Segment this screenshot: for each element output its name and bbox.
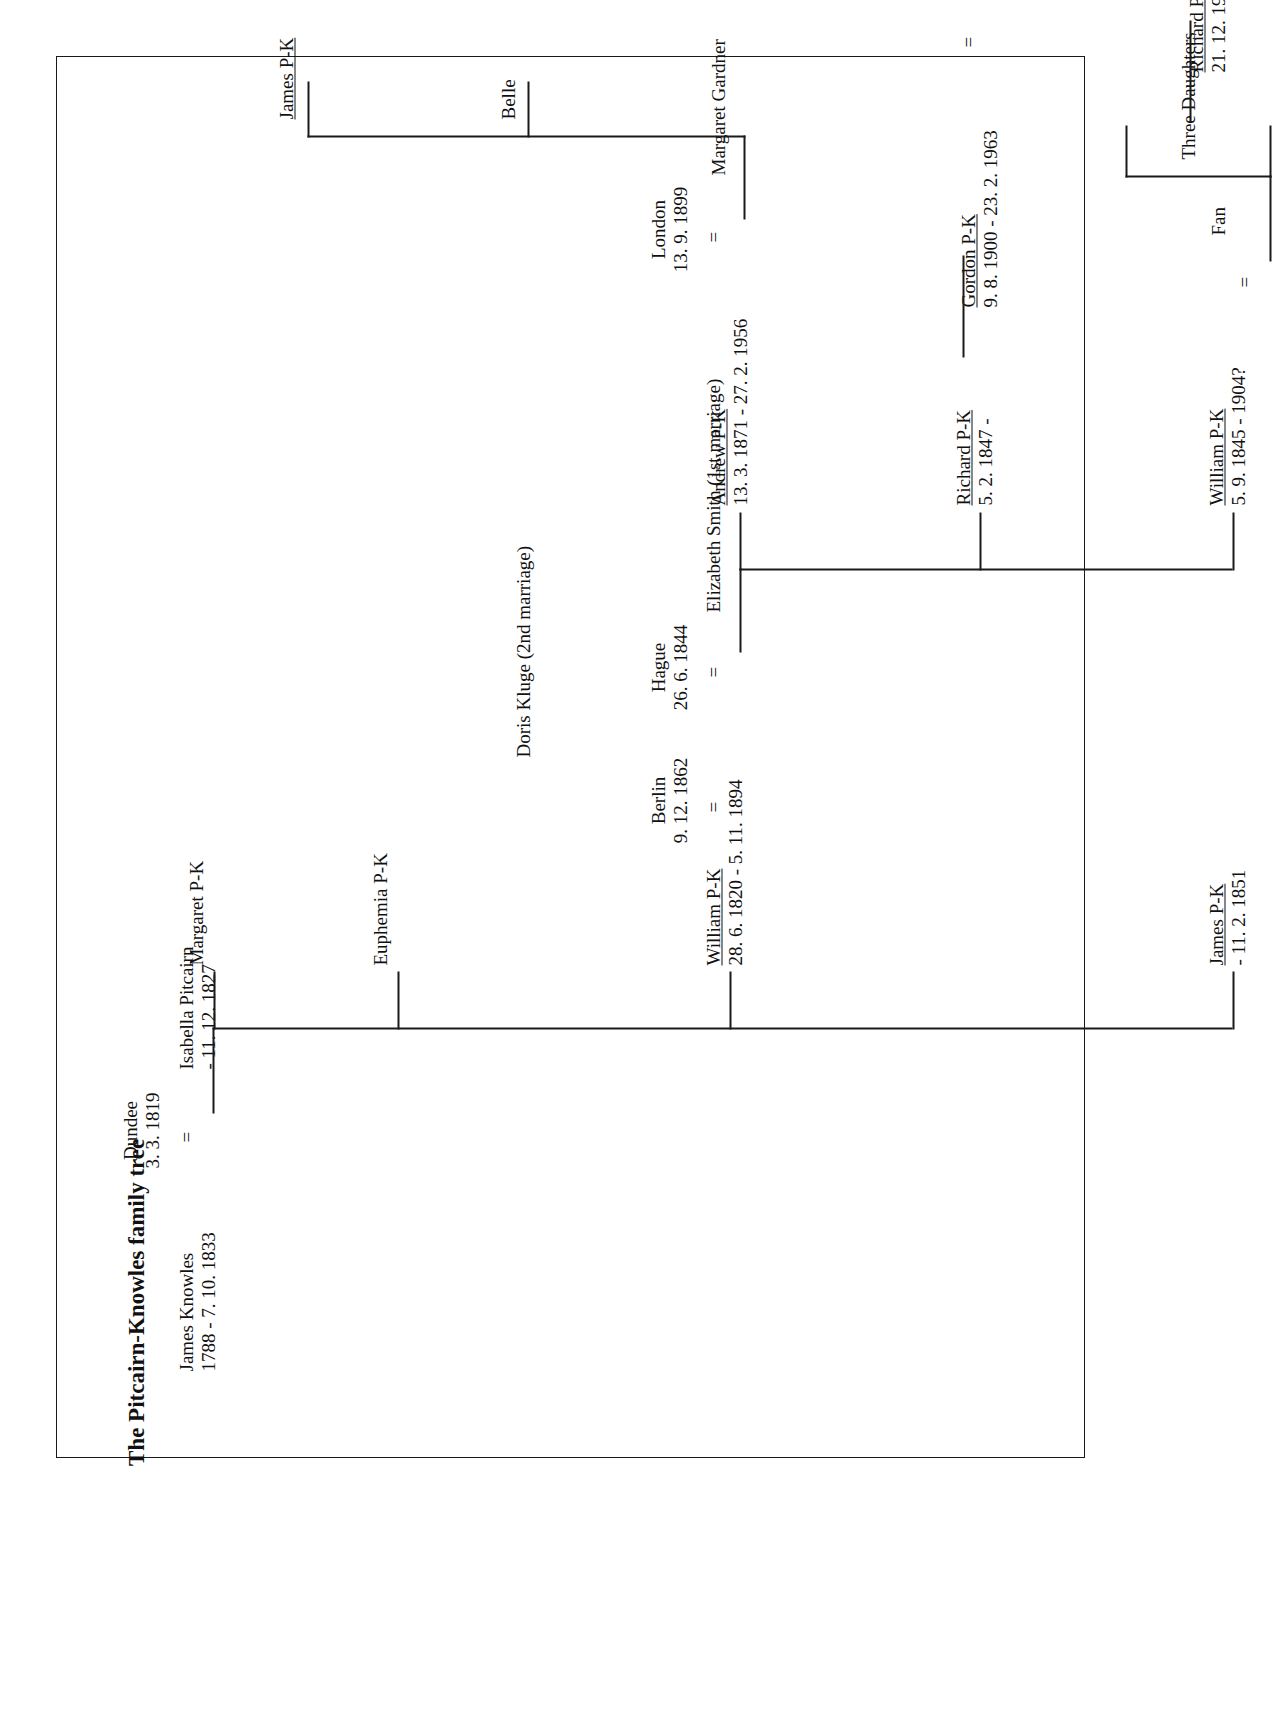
connector-line <box>743 135 745 219</box>
person-name: Gordon P-K <box>957 130 979 307</box>
marriage-symbol-2: = <box>702 666 724 677</box>
person-name: Richard P-K <box>952 409 974 505</box>
marriage-label-2: Hague 26. 6. 1844 <box>647 624 692 710</box>
person-dates: 21. 12. 1932 - <box>1207 0 1229 72</box>
person-margaret-gardner: Margaret Gardner <box>707 39 729 175</box>
person-dates: 9. 8. 1900 - 23. 2. 1963 <box>979 130 1001 307</box>
marriage-date: 26. 6. 1844 <box>669 624 691 710</box>
marriage-date: 3. 3. 1819 <box>141 1092 163 1168</box>
family-tree-canvas: James Knowles 1788 - 7. 10. 1833 = Dunde… <box>57 57 1084 1457</box>
connector-line <box>979 512 981 570</box>
person-name: Andrew P-K <box>707 318 729 505</box>
person-name: Margaret P-K <box>185 860 207 965</box>
person-name: Fan <box>1207 207 1229 236</box>
person-dates: 13. 3. 1871 - 27. 2. 1956 <box>729 318 751 505</box>
person-margaret-pk: Margaret P-K <box>185 860 207 965</box>
marriage-label-4: London 13. 9. 1899 <box>647 186 692 272</box>
connector-line <box>212 1027 1232 1029</box>
connector-line <box>1269 175 1271 261</box>
person-name: James Knowles <box>175 1232 197 1371</box>
connector-line <box>739 568 1232 570</box>
marriage-label-1: Dundee 3. 3. 1819 <box>119 1092 164 1168</box>
marriage-symbol-5: = <box>1233 276 1255 287</box>
connector-line <box>213 971 215 1029</box>
person-dates: 1788 - 7. 10. 1833 <box>197 1232 219 1371</box>
connector-line <box>307 81 309 137</box>
connector-line <box>307 135 745 137</box>
person-name: Belle <box>497 79 519 119</box>
connector-line <box>212 1027 214 1113</box>
connector-line <box>962 255 964 357</box>
connector-line <box>1269 125 1271 177</box>
person-name: James P-K <box>1205 869 1227 965</box>
person-richard-pk-1932: Richard P-K 21. 12. 1932 - <box>1185 0 1230 72</box>
person-doris-kluge: Doris Kluge (2nd marriage) <box>512 545 534 757</box>
person-dates: - 11. 2. 1851 <box>1227 869 1249 965</box>
person-dates: 5. 2. 1847 - <box>974 409 996 505</box>
connector-line <box>739 568 741 652</box>
connector-line <box>1125 125 1127 177</box>
person-name: William P-K <box>1205 367 1227 505</box>
connector-line <box>1232 971 1234 1029</box>
connector-line <box>397 971 399 1029</box>
marriage-symbol-3: = <box>702 801 724 812</box>
person-name: Euphemia P-K <box>369 853 391 965</box>
marriage-date: 9. 12. 1862 <box>669 757 691 843</box>
marriage-symbol-1: = <box>175 1131 197 1142</box>
page-border: James Knowles 1788 - 7. 10. 1833 = Dunde… <box>56 56 1085 1458</box>
connector-line <box>739 512 741 570</box>
person-name: Margaret Gardner <box>707 39 729 175</box>
marriage-place: Dundee <box>119 1092 141 1168</box>
person-james-knowles: James Knowles 1788 - 7. 10. 1833 <box>175 1232 220 1371</box>
marriage-place: Hague <box>647 624 669 710</box>
connector-line <box>1125 175 1271 177</box>
person-fan: Fan <box>1207 207 1229 236</box>
marriage-symbol-4: = <box>702 231 724 242</box>
marriage-date: 13. 9. 1899 <box>669 186 691 272</box>
person-dates: 5. 9. 1845 - 1904? <box>1227 367 1249 505</box>
person-james-pk-b: James P-K <box>275 37 297 119</box>
marriage-place: Berlin <box>647 757 669 843</box>
person-name: Richard P-K <box>1185 0 1207 72</box>
person-william-pk-1845: William P-K 5. 9. 1845 - 1904? <box>1205 367 1250 505</box>
marriage-symbol-6: = <box>957 36 979 47</box>
person-name: Doris Kluge (2nd marriage) <box>512 545 534 757</box>
person-richard-pk-1847: Richard P-K 5. 2. 1847 - <box>952 409 997 505</box>
person-dates: 28. 6. 1820 - 5. 11. 1894 <box>724 779 746 965</box>
person-name: James P-K <box>275 37 297 119</box>
person-andrew-pk: Andrew P-K 13. 3. 1871 - 27. 2. 1956 <box>707 318 752 505</box>
connector-line <box>729 971 731 1029</box>
connector-line <box>527 81 529 137</box>
marriage-label-3: Berlin 9. 12. 1862 <box>647 757 692 843</box>
marriage-place: London <box>647 186 669 272</box>
connector-line <box>1189 20 1191 122</box>
person-belle: Belle <box>497 79 519 119</box>
person-james-pk-1851: James P-K - 11. 2. 1851 <box>1205 869 1250 965</box>
connector-line <box>1232 512 1234 570</box>
person-euphemia-pk: Euphemia P-K <box>369 853 391 965</box>
